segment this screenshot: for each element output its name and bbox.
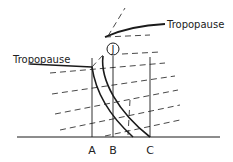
- isentrope-2: [122, 52, 160, 54]
- isentrope-1: [105, 35, 150, 37]
- front-curve-right: [103, 56, 150, 137]
- tropopause-diagram: J Tropopause Tropopause A B C: [0, 0, 233, 162]
- jet-label: J: [111, 44, 115, 55]
- front-curve-left: [92, 67, 133, 137]
- station-label-c: C: [146, 144, 154, 157]
- isentrope-6: [60, 105, 180, 130]
- isentrope-7: [105, 120, 180, 136]
- isentrope-4: [52, 76, 175, 94]
- tropopause-lower-label: Tropopause: [12, 54, 70, 65]
- station-label-a: A: [88, 144, 96, 157]
- frontal-zone-lower: [92, 55, 103, 67]
- tropopause-upper-label: Tropopause: [166, 19, 224, 30]
- station-label-b: B: [109, 144, 117, 157]
